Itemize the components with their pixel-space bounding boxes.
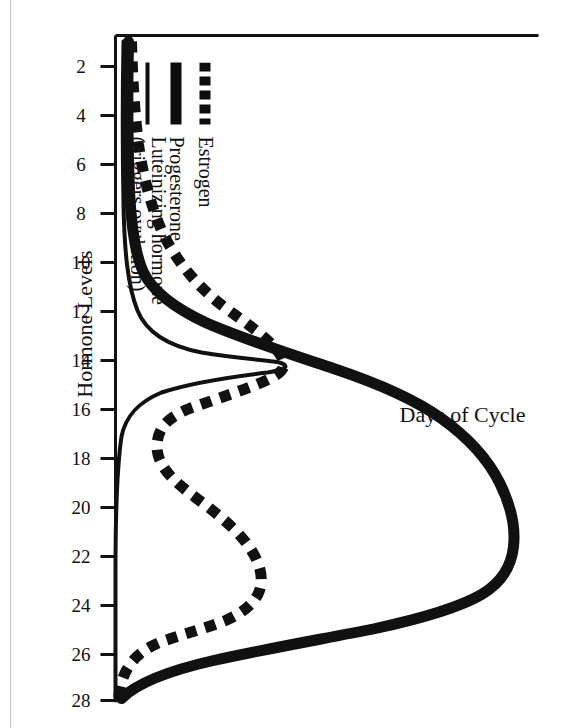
x-tick-label-16: 16 [64,400,98,419]
x-tick-label-18: 18 [64,449,98,468]
x-tick-label-26: 26 [64,645,98,664]
legend-label-estrogen: Estrogen [195,136,216,207]
legend-label-luteinizing-hormone: Luteinizing hormone (triggers ovulation) [126,136,168,304]
x-tick-label-28: 28 [64,691,98,710]
x-tick-label-24: 24 [64,596,98,615]
x-tick-label-20: 20 [64,498,98,517]
thick-line-swatch-icon [171,62,182,124]
dashed-line-swatch-icon [200,62,211,124]
legend-item-estrogen: Estrogen [192,62,218,207]
hormone-cycle-figure: 2 4 6 8 10 12 14 16 18 20 22 24 26 28 Da… [0,0,573,728]
legend-item-luteinizing-hormone: Luteinizing hormone (triggers ovulation) [134,62,160,304]
thin-line-swatch-icon [145,62,149,124]
rotated-plot-canvas: 2 4 6 8 10 12 14 16 18 20 22 24 26 28 Da… [0,0,573,728]
x-tick-label-22: 22 [64,547,98,566]
x-axis-title: Days of Cycle [399,404,525,426]
legend: Estrogen Progesterone Luteinizing hormon… [88,62,218,362]
